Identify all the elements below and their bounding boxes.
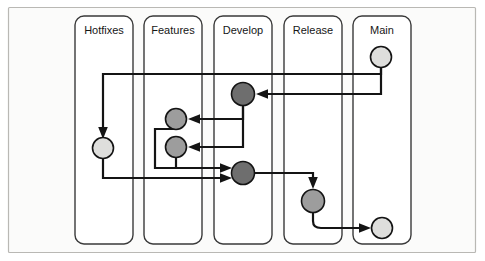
lane-features-label: Features (151, 24, 195, 36)
lane-main-label: Main (370, 24, 394, 36)
diagram-root: Hotfixes Features Develop Release Main (0, 0, 485, 261)
lane-release-label: Release (293, 24, 333, 36)
node-release-1[interactable] (302, 190, 325, 213)
node-main-bottom[interactable] (372, 218, 393, 239)
node-main-top[interactable] (371, 47, 392, 68)
node-develop-bottom[interactable] (232, 162, 255, 185)
node-feature-1[interactable] (166, 109, 187, 130)
node-hotfix-1[interactable] (93, 138, 114, 159)
git-branching-diagram: Hotfixes Features Develop Release Main (0, 0, 485, 261)
lane-hotfixes-label: Hotfixes (84, 24, 124, 36)
lane-develop-label: Develop (223, 24, 263, 36)
node-develop-top[interactable] (232, 83, 255, 106)
node-feature-2[interactable] (166, 137, 187, 158)
